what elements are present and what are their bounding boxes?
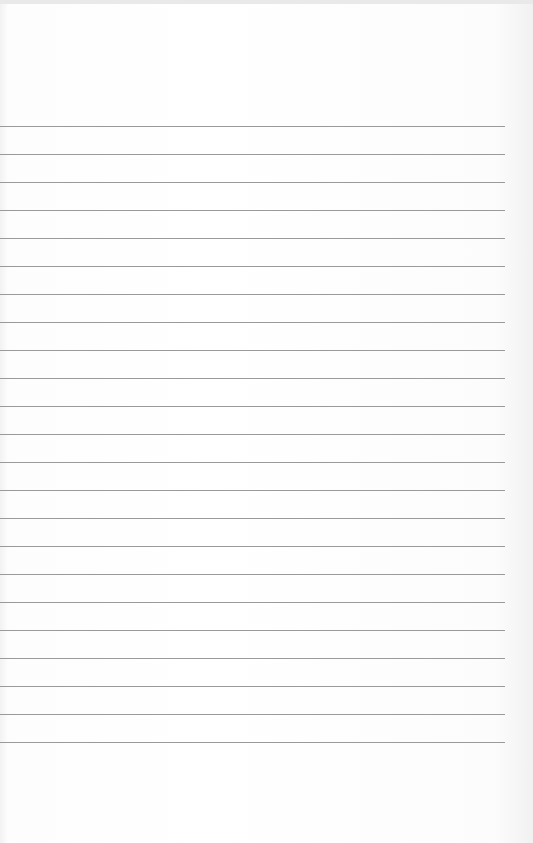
ruled-line (0, 266, 505, 267)
ruled-line (0, 378, 505, 379)
ruled-line (0, 602, 505, 603)
ruled-line (0, 182, 505, 183)
ruled-line (0, 154, 505, 155)
ruled-line (0, 238, 505, 239)
ruled-line (0, 742, 505, 743)
ruled-line (0, 406, 505, 407)
ruled-line (0, 462, 505, 463)
ruled-line (0, 574, 505, 575)
ruled-line (0, 434, 505, 435)
ruled-line (0, 210, 505, 211)
ruled-line (0, 490, 505, 491)
paper-top-edge (0, 0, 533, 4)
ruled-line (0, 350, 505, 351)
ruled-line (0, 126, 505, 127)
ruled-line (0, 686, 505, 687)
ruled-line (0, 518, 505, 519)
ruled-line (0, 630, 505, 631)
ruled-line (0, 658, 505, 659)
ruled-line (0, 546, 505, 547)
ruled-line (0, 322, 505, 323)
lined-paper (0, 0, 533, 843)
ruled-line (0, 294, 505, 295)
ruled-line (0, 714, 505, 715)
